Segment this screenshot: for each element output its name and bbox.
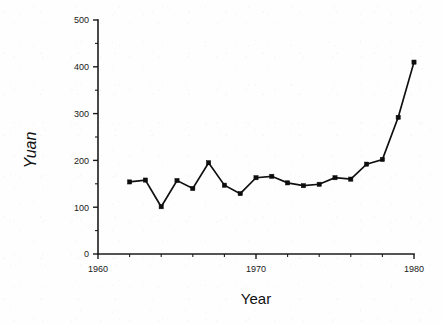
y-tick-label: 400 [74,62,89,72]
data-point-marker [301,184,305,188]
data-markers-yuan [128,60,417,209]
x-tick-label: 1970 [246,264,266,274]
data-point-marker [286,181,290,185]
x-tick-label: 1980 [404,264,424,274]
data-line-yuan [130,62,414,207]
data-point-marker [380,157,384,161]
y-tick-label: 300 [74,109,89,119]
data-point-marker [317,182,321,186]
data-point-marker [238,192,242,196]
data-point-marker [365,162,369,166]
x-axis-tick-labels: 196019701980 [88,264,424,274]
data-point-marker [222,183,226,187]
data-point-marker [207,161,211,165]
data-point-marker [270,174,274,178]
data-point-marker [159,205,163,209]
y-axis-title: Yuan [22,132,39,169]
line-chart: 0100200300400500 196019701980 Yuan Year [0,0,443,324]
data-point-marker [175,178,179,182]
data-point-marker [254,176,258,180]
y-axis-tick-labels: 0100200300400500 [74,15,89,259]
data-point-marker [333,176,337,180]
data-point-marker [349,177,353,181]
y-tick-label: 100 [74,203,89,213]
data-point-marker [143,178,147,182]
data-point-marker [191,186,195,190]
data-point-marker [396,115,400,119]
data-point-marker [412,60,416,64]
data-point-marker [128,180,132,184]
chart-figure: 0100200300400500 196019701980 Yuan Year [0,0,443,324]
y-tick-label: 200 [74,156,89,166]
x-tick-label: 1960 [88,264,108,274]
x-axis-title: Year [241,290,271,307]
y-tick-label: 0 [84,249,89,259]
y-tick-label: 500 [74,15,89,25]
